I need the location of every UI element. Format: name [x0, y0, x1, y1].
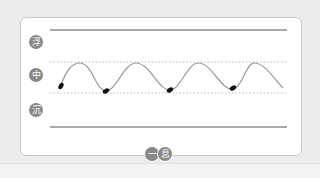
footer-strip	[0, 163, 320, 178]
pulse-marker	[102, 87, 110, 94]
sink-label: 沉	[29, 103, 43, 117]
pulse-marker	[57, 82, 64, 90]
pulse-marker	[229, 84, 237, 91]
pulse-wave	[60, 63, 283, 91]
breath-badge: 息	[157, 146, 173, 162]
middle-label: 中	[29, 68, 43, 82]
float-label: 浮	[29, 35, 43, 49]
